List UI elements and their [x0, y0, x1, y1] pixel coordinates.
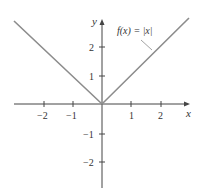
- x-axis-label: x: [185, 107, 191, 119]
- plot-svg: x y −2 −1 1 2 2 1 −1 −2 f(x) = |x|: [0, 0, 202, 191]
- x-tick-label: 1: [129, 110, 134, 121]
- y-tick-label: −2: [83, 157, 94, 168]
- annotation-leader-line: [141, 40, 152, 50]
- y-tick-label: −1: [83, 129, 94, 140]
- x-tick-label: −2: [37, 110, 48, 121]
- x-axis-arrow-icon: [184, 102, 190, 107]
- x-tick-label: 2: [158, 110, 163, 121]
- x-tick-label: −1: [66, 110, 77, 121]
- y-tick-label: 1: [89, 71, 94, 82]
- y-axis-label: y: [91, 15, 97, 27]
- abs-value-graph: x y −2 −1 1 2 2 1 −1 −2 f(x) = |x|: [0, 0, 202, 191]
- y-tick-label: 2: [89, 42, 94, 53]
- y-axis-arrow-icon: [100, 19, 105, 25]
- curve-annotation-label: f(x) = |x|: [117, 25, 153, 37]
